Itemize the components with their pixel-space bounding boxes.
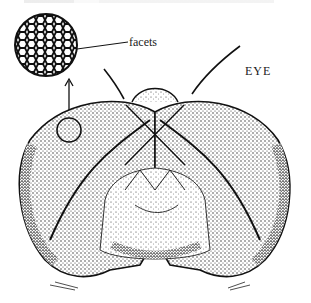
facets-leader-line [77,42,128,49]
head [19,89,289,291]
antenna-right [192,46,240,94]
eye-spot [57,118,81,142]
antenna-left [104,69,124,99]
facets-label: facets [129,35,157,50]
eye-label: EYE [245,64,271,79]
facets-inset [10,10,85,85]
